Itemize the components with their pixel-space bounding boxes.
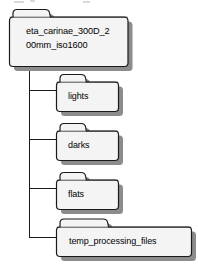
connector-branch-temp: [29, 237, 56, 238]
folder-darks[interactable]: darks: [55, 122, 125, 163]
top-edge-artifacts: [0, 0, 198, 6]
folder-temp-processing-files[interactable]: temp_processing_files: [55, 217, 198, 261]
connector-branch-darks: [29, 139, 56, 140]
folder-temp-shape: [55, 217, 198, 261]
folder-lights-shape: [55, 73, 125, 114]
root-folder-shape: [4, 8, 134, 68]
folder-tree-diagram: eta_carinae_300D_2 00mm_iso1600 lights d…: [0, 0, 198, 268]
root-folder[interactable]: eta_carinae_300D_2 00mm_iso1600: [4, 8, 134, 68]
folder-lights[interactable]: lights: [55, 73, 125, 114]
connector-spine: [29, 62, 30, 237]
folder-flats-shape: [55, 171, 125, 212]
connector-branch-flats: [29, 188, 56, 189]
folder-darks-shape: [55, 122, 125, 163]
connector-branch-lights: [29, 90, 56, 91]
folder-flats[interactable]: flats: [55, 171, 125, 212]
